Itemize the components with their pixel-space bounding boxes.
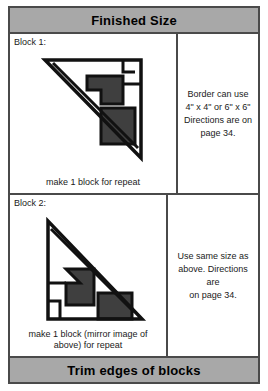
chart-footer-label: Trim edges of blocks [67, 363, 200, 378]
block2-corner-notch-lower [48, 301, 60, 319]
block2-patch-upper [66, 269, 94, 305]
block1-patch-upper [87, 76, 123, 104]
block2-note-line-1: Use same size as [173, 250, 253, 263]
block2-quilt-diagram-svg [26, 209, 150, 333]
page-root: Finished Size Block 1: [0, 0, 268, 391]
block2-label: Block 2: [14, 198, 46, 209]
block1-label: Block 1: [14, 37, 46, 48]
finished-size-chart: Finished Size Block 1: [8, 6, 260, 384]
block1-note-line-2: 4" x 4" or 6" x 6" [184, 101, 252, 114]
block1-note-cell: Border can use 4" x 4" or 6" x 6" Direct… [178, 34, 258, 193]
block2-note-line-2: above. Directions are [173, 263, 253, 289]
block2-caption-line-1: make 1 block (mirror image [28, 329, 137, 339]
chart-footer-banner: Trim edges of blocks [10, 356, 258, 382]
block2-caption: make 1 block (mirror image of above) for… [16, 329, 160, 351]
block1-diagram-cell: Block 1: [10, 34, 178, 193]
block1-caption-text: make 1 block for repeat [46, 177, 140, 187]
table-row: Block 1: [10, 34, 258, 195]
block1-note-line-3: Directions are on [184, 114, 252, 127]
block1-note: Border can use 4" x 4" or 6" x 6" Direct… [184, 88, 252, 140]
block2-figure [10, 209, 166, 333]
block2-note-cell: Use same size as above. Directions are o… [168, 195, 258, 356]
block1-quilt-diagram-svg [31, 48, 155, 172]
chart-header-label: Finished Size [91, 13, 177, 28]
block2-diagram-cell: Block 2: [10, 195, 168, 356]
block2-note: Use same size as above. Directions are o… [173, 250, 253, 302]
block2-note-line-3: on page 34. [173, 289, 253, 302]
block1-figure [10, 48, 176, 172]
block1-note-line-1: Border can use [184, 88, 252, 101]
block1-caption: make 1 block for repeat [16, 177, 170, 188]
block1-note-line-4: page 34. [184, 127, 252, 140]
block1-corner-notch-upper [123, 60, 135, 72]
table-row: Block 2: [10, 195, 258, 356]
chart-body-grid: Block 1: [10, 34, 258, 356]
chart-header-banner: Finished Size [10, 8, 258, 34]
